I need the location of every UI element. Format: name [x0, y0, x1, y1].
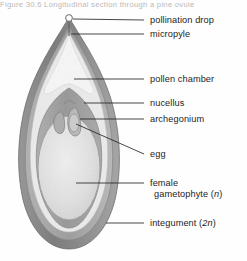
label-female-gametophyte-close: )	[219, 189, 222, 199]
label-female-gametophyte: female gametophyte (n)	[150, 178, 222, 200]
egg-cell	[69, 114, 79, 132]
label-archegonium: archegonium	[150, 114, 204, 125]
label-pollen-chamber: pollen chamber	[150, 74, 214, 85]
label-integument-text: integument (	[150, 218, 202, 228]
label-egg: egg	[150, 149, 166, 160]
label-nucellus: nucellus	[150, 98, 185, 109]
label-integument: integument (2n)	[150, 218, 216, 229]
label-integument-close: )	[213, 218, 216, 228]
label-female-gametophyte-line2: gametophyte (	[154, 189, 214, 199]
label-pollination-drop: pollination drop	[150, 15, 214, 26]
label-micropyle: micropyle	[150, 29, 190, 40]
pine-ovule-figure: Figure 30.6 Longitudinal section through…	[0, 0, 247, 261]
label-integument-ploidy: 2n	[202, 218, 212, 228]
label-female-gametophyte-line1: female	[150, 178, 178, 188]
female-gametophyte-body	[38, 116, 100, 220]
pollination-drop-bead	[66, 15, 73, 22]
leader-pollination-drop	[73, 19, 144, 20]
